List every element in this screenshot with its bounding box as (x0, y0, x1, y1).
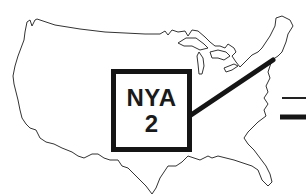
station-code: NYA (127, 85, 177, 111)
map-figure: NYA 2 (0, 0, 306, 194)
station-number: 2 (145, 111, 158, 137)
station-label-box: NYA 2 (111, 69, 192, 152)
connector-line (188, 60, 273, 117)
